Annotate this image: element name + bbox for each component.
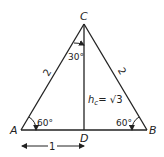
equilateral-triangle-diagram: C A B D 2 2 30° 60° 60° hc= √3 1 [0,0,164,157]
dimension-label-ad: 1 [49,141,55,152]
vertex-label-b: B [149,124,157,137]
vertex-label-c: C [80,10,88,23]
vertex-label-d: D [80,132,88,145]
angle-arc-b [132,117,139,130]
side-label-bc: 2 [116,66,129,77]
side-label-ac: 2 [41,67,54,78]
angle-arc-c [74,43,84,45]
angle-label-b: 60° [116,118,132,128]
vertex-label-a: A [9,124,18,137]
angle-arc-a [29,117,36,130]
angle-label-c: 30° [68,52,84,62]
height-label: hc= √3 [88,94,123,107]
side-ac [21,24,84,130]
angle-label-a: 60° [37,118,53,128]
side-bc [84,24,147,130]
